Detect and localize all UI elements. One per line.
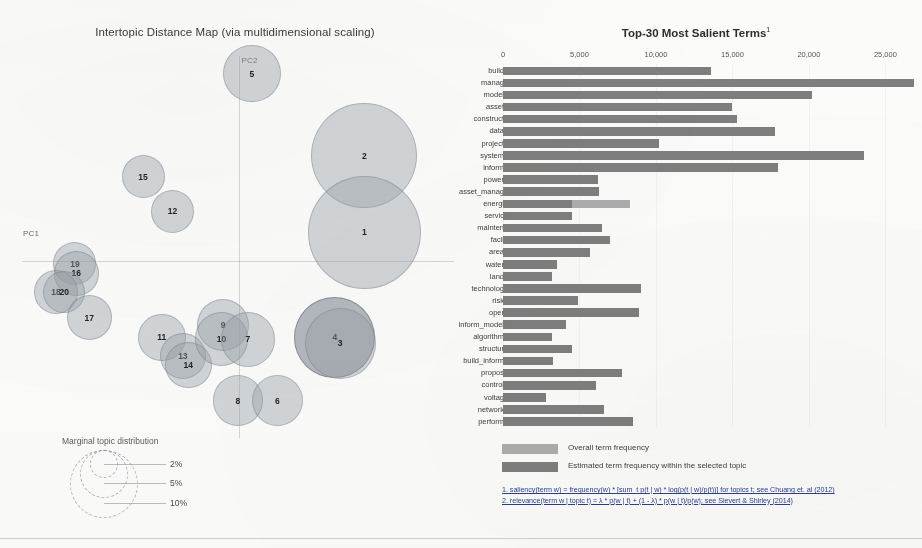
bar-estimated-area[interactable] [503, 248, 590, 257]
bar-estimated-propos[interactable] [503, 369, 622, 378]
bar-estimated-inform[interactable] [503, 163, 778, 172]
term-label-water[interactable]: water [374, 260, 504, 269]
bar-row[interactable]: facil [470, 234, 922, 246]
bar-overall-build_inform[interactable] [503, 357, 553, 366]
topic-bubble-12[interactable]: 12 [151, 190, 194, 233]
bar-row[interactable]: propos [470, 367, 922, 379]
bar-overall-network[interactable] [503, 405, 604, 414]
bar-overall-project[interactable] [503, 139, 659, 148]
term-label-oper[interactable]: oper [374, 308, 504, 317]
bar-estimated-voltag[interactable] [503, 393, 546, 402]
topic-bubble-3[interactable]: 3 [305, 308, 376, 379]
bar-row[interactable]: structur [470, 343, 922, 355]
bar-estimated-technolog[interactable] [503, 284, 641, 293]
bar-estimated-oper[interactable] [503, 308, 639, 317]
term-label-project[interactable]: project [374, 139, 504, 148]
term-label-inform[interactable]: inform [374, 163, 504, 172]
bar-estimated-land[interactable] [503, 272, 552, 281]
bar-estimated-asset_manag[interactable] [503, 187, 599, 196]
bar-estimated-system[interactable] [503, 151, 864, 160]
term-label-algorithm[interactable]: algorithm [374, 332, 504, 341]
bar-overall-algorithm[interactable] [503, 333, 552, 342]
bar-row[interactable]: perform [470, 416, 922, 428]
term-label-area[interactable]: area [374, 247, 504, 256]
term-label-propos[interactable]: propos [374, 368, 504, 377]
term-label-network[interactable]: network [374, 405, 504, 414]
bar-estimated-asset[interactable] [503, 103, 732, 112]
term-label-manag[interactable]: manag [374, 78, 504, 87]
term-label-build[interactable]: build [374, 66, 504, 75]
bar-estimated-perform[interactable] [503, 417, 633, 426]
bar-estimated-construct[interactable] [503, 115, 737, 124]
footnote-relevance[interactable]: 2. relevance(term w | topic t) = λ * p(w… [502, 496, 922, 507]
bar-estimated-data[interactable] [503, 127, 775, 136]
bar-estimated-mainten[interactable] [503, 224, 602, 233]
bar-row[interactable]: voltag [470, 392, 922, 404]
bar-overall-construct[interactable] [503, 115, 737, 124]
bar-row[interactable]: power [470, 174, 922, 186]
term-label-perform[interactable]: perform [374, 417, 504, 426]
bar-estimated-control[interactable] [503, 381, 596, 390]
bar-overall-voltag[interactable] [503, 393, 546, 402]
bar-row[interactable]: area [470, 246, 922, 258]
bar-overall-propos[interactable] [503, 369, 622, 378]
bar-estimated-project[interactable] [503, 139, 659, 148]
bar-overall-structur[interactable] [503, 345, 572, 354]
term-label-servic[interactable]: servic [374, 211, 504, 220]
bar-row[interactable]: control [470, 379, 922, 391]
term-label-land[interactable]: land [374, 272, 504, 281]
bar-estimated-structur[interactable] [503, 345, 572, 354]
bar-row[interactable]: build_inform [470, 355, 922, 367]
term-label-risk[interactable]: risk [374, 296, 504, 305]
term-label-structur[interactable]: structur [374, 344, 504, 353]
bar-estimated-power[interactable] [503, 175, 598, 184]
bar-row[interactable]: asset [470, 101, 922, 113]
bar-row[interactable]: mainten [470, 222, 922, 234]
bar-row[interactable]: risk [470, 295, 922, 307]
term-label-inform_model[interactable]: inform_model [374, 320, 504, 329]
bar-row[interactable]: build [470, 65, 922, 77]
footnote-saliency[interactable]: 1. saliency(term w) = frequency(w) * [su… [502, 485, 922, 496]
bar-overall-water[interactable] [503, 260, 557, 269]
bar-row[interactable]: asset_manag [470, 186, 922, 198]
bar-overall-area[interactable] [503, 248, 590, 257]
term-label-system[interactable]: system [374, 151, 504, 160]
bar-overall-asset_manag[interactable] [503, 187, 599, 196]
bar-overall-mainten[interactable] [503, 224, 602, 233]
bar-row[interactable]: technolog [470, 283, 922, 295]
bar-row[interactable]: project [470, 138, 922, 150]
term-label-model[interactable]: model [374, 90, 504, 99]
term-label-facil[interactable]: facil [374, 235, 504, 244]
bar-overall-manag[interactable] [503, 79, 914, 88]
bar-estimated-energi[interactable] [503, 200, 572, 209]
bar-row[interactable]: inform [470, 162, 922, 174]
term-label-construct[interactable]: construct [374, 114, 504, 123]
term-label-mainten[interactable]: mainten [374, 223, 504, 232]
bar-estimated-model[interactable] [503, 91, 812, 100]
topic-bubble-7[interactable]: 7 [221, 312, 276, 367]
bar-row[interactable]: algorithm [470, 331, 922, 343]
bar-overall-servic[interactable] [503, 212, 572, 221]
bar-row[interactable]: land [470, 271, 922, 283]
bar-overall-energi[interactable] [503, 200, 630, 209]
term-label-energi[interactable]: energi [374, 199, 504, 208]
bar-estimated-risk[interactable] [503, 296, 578, 305]
topic-bubble-15[interactable]: 15 [122, 155, 165, 198]
bar-overall-inform_model[interactable] [503, 320, 566, 329]
bar-row[interactable]: water [470, 259, 922, 271]
bar-estimated-network[interactable] [503, 405, 604, 414]
bar-overall-model[interactable] [503, 91, 812, 100]
bar-overall-control[interactable] [503, 381, 596, 390]
bar-row[interactable]: manag [470, 77, 922, 89]
bar-row[interactable]: data [470, 125, 922, 137]
bar-row[interactable]: system [470, 150, 922, 162]
bar-row[interactable]: oper [470, 307, 922, 319]
term-label-asset[interactable]: asset [374, 102, 504, 111]
bar-overall-system[interactable] [503, 151, 864, 160]
bar-row[interactable]: servic [470, 210, 922, 222]
bar-overall-asset[interactable] [503, 103, 732, 112]
bar-estimated-manag[interactable] [503, 79, 914, 88]
bar-estimated-algorithm[interactable] [503, 333, 552, 342]
term-label-build_inform[interactable]: build_inform [374, 356, 504, 365]
bar-overall-land[interactable] [503, 272, 552, 281]
